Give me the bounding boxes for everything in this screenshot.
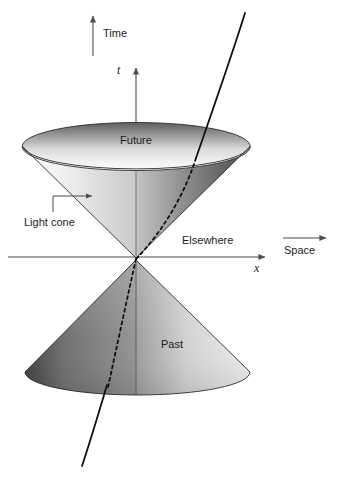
elsewhere-label: Elsewhere [182,234,233,246]
light-cone-label: Light cone [24,216,75,228]
lightcone-figure: Time Space t x [0,0,342,477]
space-label: Space [284,244,315,256]
x-axis-label: x [253,261,260,275]
past-cone: Past [25,260,250,395]
space-direction-annotation: Space [283,238,326,256]
time-label: Time [103,27,127,39]
t-axis-label: t [117,63,121,77]
past-cone-shading-overlay [25,260,250,395]
lightcone-diagram-canvas: Time Space t x [0,0,342,477]
worldline-lower-solid [82,385,107,466]
time-direction-annotation: Time [93,16,127,56]
future-label: Future [120,134,152,146]
past-label: Past [161,338,183,350]
